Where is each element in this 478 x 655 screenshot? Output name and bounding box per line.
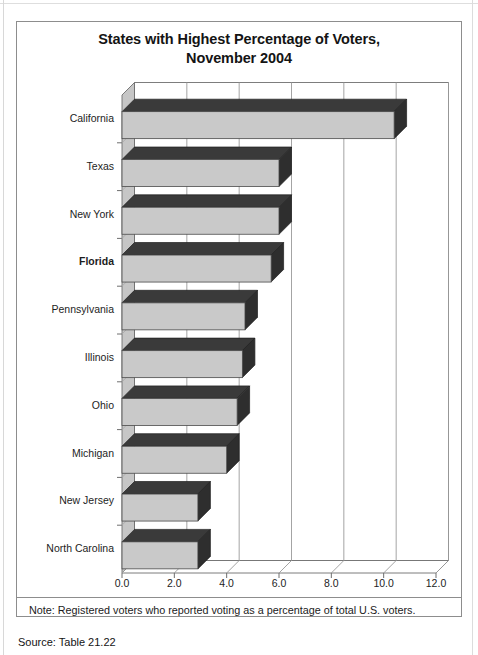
category-label-new-york: New York	[22, 208, 114, 220]
category-label-illinois: Illinois	[22, 351, 114, 363]
category-label-florida: Florida	[22, 255, 114, 267]
page-left-edge	[3, 0, 4, 655]
source-caption: Source: Table 21.22	[18, 636, 116, 648]
x-tick-label-6.0: 6.0	[259, 577, 299, 589]
category-axis-labels: CaliforniaTexasNew YorkFloridaPennsylvan…	[20, 0, 114, 600]
category-label-north-carolina: North Carolina	[22, 542, 114, 554]
chart-note: Note: Registered voters who reported vot…	[29, 604, 459, 616]
x-tick-label-2.0: 2.0	[154, 577, 194, 589]
x-tick-label-4.0: 4.0	[207, 577, 247, 589]
category-label-michigan: Michigan	[22, 447, 114, 459]
category-label-california: California	[22, 112, 114, 124]
x-tick-label-8.0: 8.0	[311, 577, 351, 589]
x-tick-label-0.0: 0.0	[102, 577, 142, 589]
category-label-ohio: Ohio	[22, 399, 114, 411]
category-label-pennsylvania: Pennsylvania	[22, 303, 114, 315]
value-axis-tick-labels: 0.02.04.06.08.010.012.0	[0, 577, 478, 597]
page-right-edge	[472, 0, 473, 655]
category-label-texas: Texas	[22, 160, 114, 172]
category-label-new-jersey: New Jersey	[22, 494, 114, 506]
x-tick-label-12.0: 12.0	[416, 577, 456, 589]
x-tick-label-10.0: 10.0	[364, 577, 404, 589]
chart-title-line-1: States with Highest Percentage of Voters…	[98, 31, 380, 47]
note-divider	[17, 597, 461, 598]
